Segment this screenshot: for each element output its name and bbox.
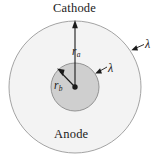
radius-rb-subscript: b — [59, 84, 63, 93]
radius-rb-symbol: r — [54, 79, 58, 91]
radius-ra-symbol: r — [72, 45, 76, 57]
coaxial-cable-diagram: Cathode Anode ra rb λ λ — [0, 0, 162, 156]
radius-ra-label: ra — [72, 46, 81, 59]
cathode-label: Cathode — [53, 2, 96, 15]
axis-center-dot — [72, 84, 77, 89]
anode-label: Anode — [54, 128, 88, 141]
lambda-outer-label: λ — [145, 38, 150, 50]
radius-ra-subscript: a — [77, 50, 81, 59]
lambda-inner-label: λ — [108, 62, 113, 74]
radius-rb-label: rb — [54, 80, 63, 93]
lambda-outer-arrowhead — [131, 45, 138, 50]
